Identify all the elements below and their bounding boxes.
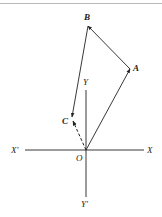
point-b-label: B (83, 12, 90, 22)
vector-o-to-c-dashed (73, 121, 86, 150)
vector-o-to-a (86, 69, 130, 150)
y-positive-label: Y (83, 77, 89, 87)
vector-a-to-b (88, 26, 130, 69)
point-c-label: C (62, 116, 69, 126)
y-negative-label: Y′ (81, 199, 89, 209)
point-a-label: A (132, 63, 139, 73)
x-positive-label: X (146, 145, 153, 155)
origin-label: O (76, 153, 83, 163)
vector-diagram: B A C Y X′ X O Y′ (0, 0, 162, 217)
x-negative-label: X′ (10, 145, 19, 155)
